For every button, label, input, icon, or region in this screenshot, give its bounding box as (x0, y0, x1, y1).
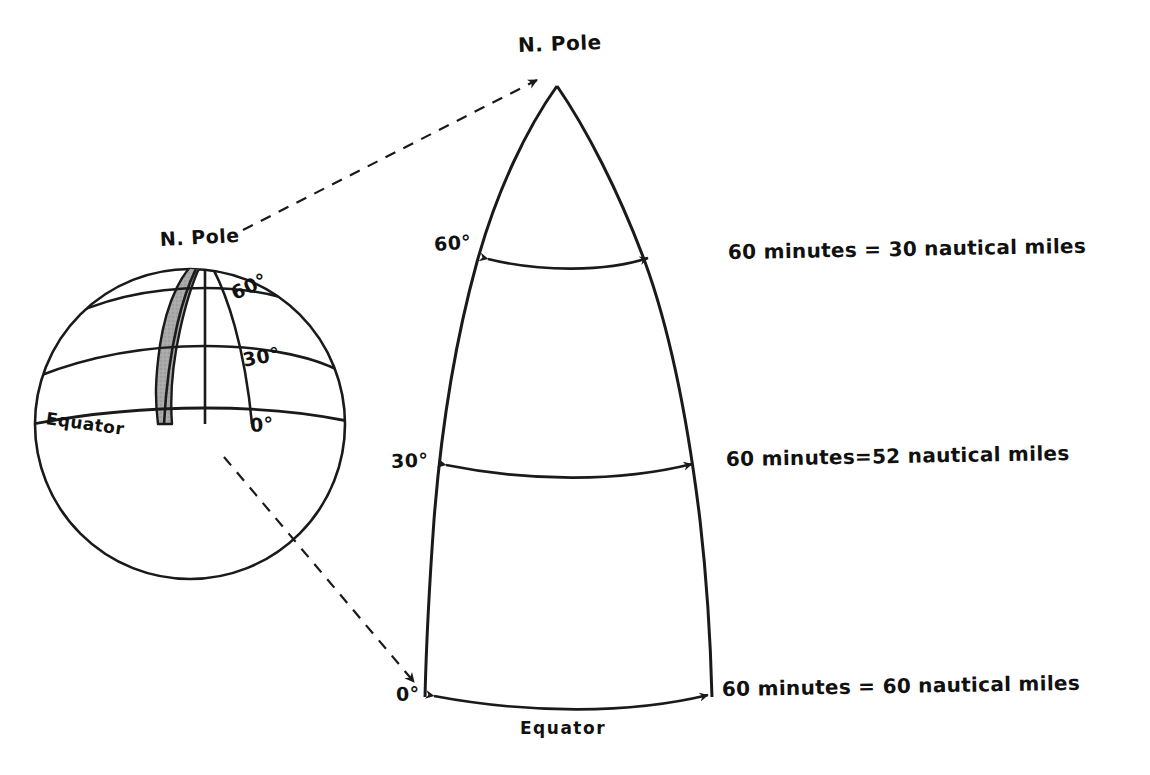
gore-arrow-30[interactable] (446, 464, 692, 478)
globe-pole-label: N. Pole (159, 224, 240, 250)
diagram-drawing (0, 0, 1150, 775)
gore-illustration (425, 86, 712, 709)
gore-latitude-label-60: 60° (433, 230, 472, 255)
gore-arrow-equator[interactable] (434, 695, 708, 709)
leader-line-equator (224, 457, 414, 682)
globe-parallel-30 (39, 346, 350, 377)
gore-left-edge (425, 86, 557, 697)
globe-latitude-label-0: 0° (249, 412, 274, 436)
diagram-canvas: N. Pole 60° 30° 0° Equator N. Pole 60° 3… (0, 0, 1150, 775)
gore-latitude-label-0: 0° (396, 682, 420, 705)
gore-equator-label: Equator (520, 718, 606, 738)
leader-line-pole (243, 80, 537, 230)
gore-right-edge (557, 86, 712, 697)
globe-shaded-gore (156, 256, 205, 424)
gore-latitude-label-30: 30° (391, 449, 429, 472)
gore-arrow-60[interactable] (488, 258, 648, 269)
gore-pole-label: N. Pole (518, 30, 602, 57)
